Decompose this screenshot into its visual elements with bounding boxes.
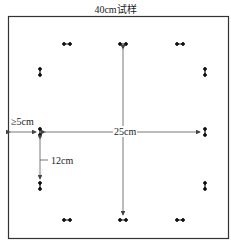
marker-right-column bbox=[204, 68, 207, 191]
marker-bottom-row bbox=[63, 219, 185, 222]
marker-top-row bbox=[63, 43, 185, 46]
spacing-label: 12cm bbox=[51, 155, 73, 166]
specimen-diagram bbox=[0, 0, 231, 243]
edge-distance-label: ≥5cm bbox=[11, 116, 34, 127]
span-label: 25cm bbox=[113, 126, 137, 137]
